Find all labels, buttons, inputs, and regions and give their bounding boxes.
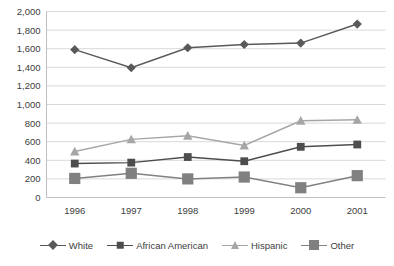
chart-svg: 02004006008001,0001,2001,4001,6001,8002,… xyxy=(0,0,394,224)
legend-swatch xyxy=(222,239,248,251)
y-tick-label: 400 xyxy=(25,155,41,166)
data-point-square-large xyxy=(352,170,363,181)
data-point-diamond xyxy=(296,39,305,48)
x-tick-label: 1999 xyxy=(234,205,255,216)
y-tick-label: 1,200 xyxy=(17,80,41,91)
x-tick-label: 2000 xyxy=(290,205,311,216)
chart-legend: WhiteAfrican AmericanHispanicOther xyxy=(0,232,394,258)
plot-area: 02004006008001,0001,2001,4001,6001,8002,… xyxy=(0,0,394,224)
legend-label: White xyxy=(69,240,93,251)
data-point-square xyxy=(71,160,79,168)
legend-label: Hispanic xyxy=(251,240,287,251)
data-point-diamond xyxy=(127,63,136,72)
data-point-square-large xyxy=(239,171,250,182)
x-tick-label: 1996 xyxy=(64,205,85,216)
y-tick-label: 1,600 xyxy=(17,43,41,54)
legend-label: Other xyxy=(330,240,354,251)
y-tick-label: 2,000 xyxy=(17,6,41,17)
data-point-diamond xyxy=(240,40,249,49)
data-point-square-large xyxy=(182,173,193,184)
gridlines xyxy=(47,12,386,198)
y-tick-label: 1,400 xyxy=(17,62,41,73)
x-tick-label: 1997 xyxy=(121,205,142,216)
data-point-square xyxy=(184,153,192,161)
legend-marker-diamond xyxy=(48,240,58,250)
y-tick-label: 600 xyxy=(25,136,41,147)
legend-item-white[interactable]: White xyxy=(40,239,93,251)
legend-marker-square-small xyxy=(117,242,124,249)
y-tick-label: 200 xyxy=(25,173,41,184)
data-point-square xyxy=(240,157,248,165)
line-chart: 02004006008001,0001,2001,4001,6001,8002,… xyxy=(0,0,394,266)
legend-swatch xyxy=(301,239,327,251)
x-tick-label: 1998 xyxy=(177,205,198,216)
data-point-diamond xyxy=(70,45,79,54)
data-point-square-large xyxy=(126,168,137,179)
y-tick-label: 0 xyxy=(35,192,40,203)
legend-label: African American xyxy=(136,240,208,251)
data-point-square-large xyxy=(295,182,306,193)
y-tick-label: 1,800 xyxy=(17,25,41,36)
data-point-diamond xyxy=(353,19,362,28)
legend-swatch xyxy=(107,239,133,251)
legend-marker-triangle xyxy=(231,241,239,249)
legend-swatch xyxy=(40,239,66,251)
y-tick-label: 1,000 xyxy=(17,99,41,110)
data-point-square xyxy=(127,159,135,167)
x-tick-label: 2001 xyxy=(347,205,368,216)
x-axis-tick-labels: 199619971998199920002001 xyxy=(64,205,368,216)
data-point-square-large xyxy=(69,173,80,184)
series-line xyxy=(75,24,358,68)
y-axis-tick-labels: 02004006008001,0001,2001,4001,6001,8002,… xyxy=(17,6,41,203)
y-tick-label: 800 xyxy=(25,118,41,129)
data-point-square xyxy=(297,143,305,151)
data-point-square xyxy=(353,141,361,149)
legend-item-african-american[interactable]: African American xyxy=(107,239,208,251)
data-point-diamond xyxy=(183,43,192,52)
legend-marker-square-large xyxy=(309,240,319,250)
legend-item-hispanic[interactable]: Hispanic xyxy=(222,239,287,251)
series-line xyxy=(75,173,358,187)
legend-item-other[interactable]: Other xyxy=(301,239,354,251)
